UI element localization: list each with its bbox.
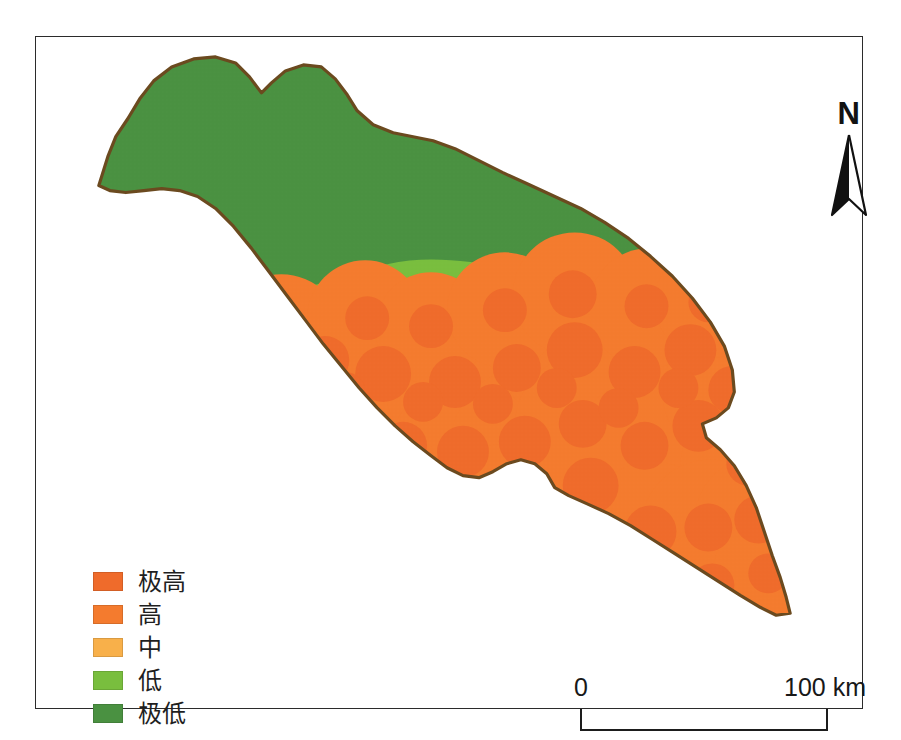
- scale-bar-rule: [580, 709, 828, 731]
- legend-swatch-extreme-high: [93, 572, 123, 591]
- north-arrow-icon: [816, 133, 882, 217]
- scale-bar: 0 100 km: [574, 673, 860, 739]
- scale-bar-max-label: 100 km: [784, 673, 866, 702]
- north-arrow-label: N: [816, 97, 882, 131]
- scale-bar-labels: 0 100 km: [574, 673, 860, 703]
- legend-item-medium[interactable]: 中: [93, 631, 263, 664]
- scale-bar-min-label: 0: [574, 673, 588, 702]
- legend-label-medium: 中: [138, 636, 162, 660]
- north-arrow: N: [816, 97, 882, 217]
- map-frame: N 0 100 km 极高 高 中 低: [35, 36, 863, 709]
- legend-swatch-low: [93, 671, 123, 690]
- legend-label-extreme-high: 极高: [138, 570, 186, 594]
- legend-item-extreme-high[interactable]: 极高: [93, 565, 263, 598]
- legend-swatch-extreme-low: [93, 704, 123, 723]
- legend-label-extreme-low: 极低: [138, 702, 186, 726]
- legend-swatch-high: [93, 605, 123, 624]
- legend-item-high[interactable]: 高: [93, 598, 263, 631]
- legend-swatch-medium: [93, 638, 123, 657]
- legend-label-high: 高: [138, 603, 162, 627]
- legend-item-low[interactable]: 低: [93, 664, 263, 697]
- legend-label-low: 低: [138, 669, 162, 693]
- legend-item-extreme-low[interactable]: 极低: [93, 697, 263, 730]
- legend: 极高 高 中 低 极低: [93, 565, 263, 730]
